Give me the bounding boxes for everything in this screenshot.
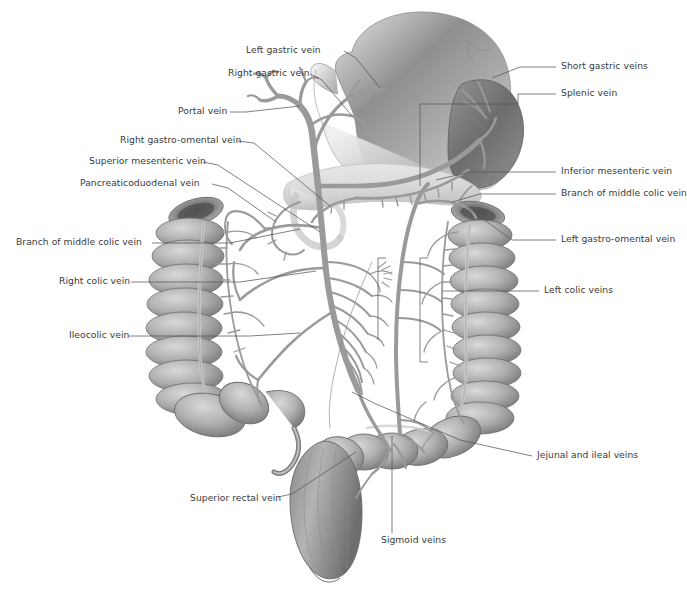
label-branch-of-middle-colic-vein-right: Branch of middle colic vein bbox=[561, 187, 687, 198]
superior-mesenteric-vein bbox=[318, 186, 358, 390]
inferior-mesenteric-vein bbox=[396, 184, 428, 434]
label-left-gastric-vein: Left gastric vein bbox=[246, 44, 321, 55]
left-colic-veins bbox=[398, 262, 444, 330]
appendix bbox=[274, 428, 299, 474]
leader-portal-vein-2 bbox=[246, 106, 300, 112]
descending-colon bbox=[446, 197, 521, 434]
leader-splenic-vein bbox=[518, 94, 556, 104]
label-left-gastro-omental-vein: Left gastro-omental vein bbox=[561, 233, 675, 244]
label-right-gastro-omental-vein: Right gastro-omental vein bbox=[120, 134, 241, 145]
ascending-colon bbox=[146, 192, 228, 415]
label-superior-rectal-vein: Superior rectal vein bbox=[190, 492, 281, 503]
label-pancreaticoduodenal-vein: Pancreaticoduodenal vein bbox=[80, 177, 200, 188]
label-jejunal-and-ileal-veins: Jejunal and ileal veins bbox=[537, 449, 638, 460]
label-branch-of-middle-colic-vein-left: Branch of middle colic vein bbox=[16, 236, 142, 247]
label-right-gastric-vein: Right gastric vein bbox=[228, 67, 310, 78]
label-ileocolic-vein: Ileocolic vein bbox=[69, 329, 129, 340]
label-superior-mesenteric-vein: Superior mesenteric vein bbox=[89, 155, 206, 166]
portal-vein bbox=[248, 68, 318, 186]
label-short-gastric-veins: Short gastric veins bbox=[561, 60, 648, 71]
label-splenic-vein: Splenic vein bbox=[561, 87, 617, 98]
bracket-jejunal-ileal bbox=[420, 258, 428, 362]
label-right-colic-vein: Right colic vein bbox=[59, 275, 130, 286]
label-portal-vein: Portal vein bbox=[178, 105, 227, 116]
label-sigmoid-veins: Sigmoid veins bbox=[381, 534, 446, 545]
label-inferior-mesenteric-vein: Inferior mesenteric vein bbox=[561, 165, 672, 176]
rectum bbox=[290, 441, 362, 582]
label-left-colic-veins: Left colic veins bbox=[544, 284, 613, 295]
